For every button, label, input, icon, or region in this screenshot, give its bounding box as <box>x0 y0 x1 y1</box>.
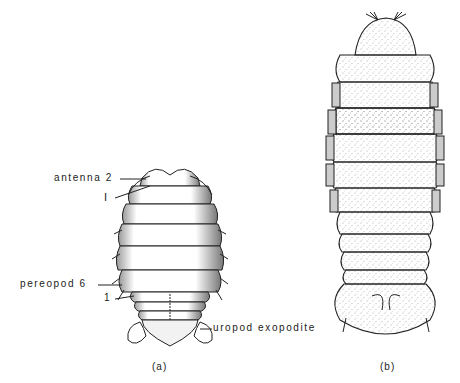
caption-a: (a) <box>152 361 167 372</box>
isopod-b <box>330 18 440 334</box>
caption-b: (b) <box>380 361 395 372</box>
label-pereopod-6: pereopod 6 <box>20 278 87 289</box>
label-antenna-2: antenna 2 <box>54 172 113 183</box>
label-roman-one: I <box>104 191 109 203</box>
label-uropod-exopodite: uropod exopodite <box>213 322 316 333</box>
label-pleon-1: 1 <box>104 292 111 303</box>
